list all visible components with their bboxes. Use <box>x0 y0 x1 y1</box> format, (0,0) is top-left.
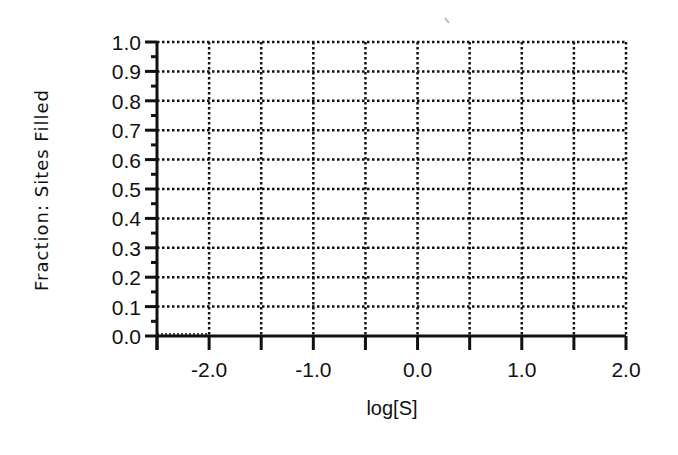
x-tick-label: 2.0 <box>611 358 640 381</box>
y-tick-label: 0.8 <box>112 90 141 113</box>
y-tick-label: 0.0 <box>112 325 141 348</box>
chart: 0.00.10.20.30.40.50.60.70.80.91.0-2.0-1.… <box>0 0 678 455</box>
y-tick-label: 0.3 <box>112 237 141 260</box>
y-tick-label: 0.7 <box>112 119 141 142</box>
y-tick-label: 0.6 <box>112 149 141 172</box>
y-tick-label: 0.4 <box>112 207 142 230</box>
x-tick-label: 1.0 <box>507 358 536 381</box>
x-tick-label: 0.0 <box>403 358 432 381</box>
y-tick-label: 0.5 <box>112 178 141 201</box>
x-axis-title: log[S] <box>366 397 417 419</box>
y-tick-label: 0.9 <box>112 60 141 83</box>
x-tick-label: -2.0 <box>191 358 227 381</box>
x-tick-label: -1.0 <box>295 358 331 381</box>
stray-mark <box>445 18 449 23</box>
y-tick-label: 0.2 <box>112 266 141 289</box>
tick-labels: 0.00.10.20.30.40.50.60.70.80.91.0-2.0-1.… <box>112 31 641 381</box>
axes <box>145 42 626 350</box>
grid <box>157 42 626 336</box>
y-axis-title: Fraction: Sites Filled <box>31 89 52 291</box>
y-tick-label: 1.0 <box>112 31 141 54</box>
y-tick-label: 0.1 <box>112 296 141 319</box>
